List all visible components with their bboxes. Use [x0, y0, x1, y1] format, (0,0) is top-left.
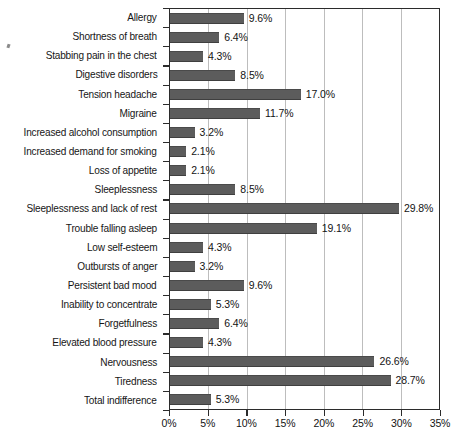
- category-label: Loss of appetite: [89, 165, 157, 176]
- bar-value-label: 2.1%: [191, 146, 215, 157]
- category-label-row: Trouble falling asleep: [0, 219, 163, 238]
- bar: [170, 299, 211, 310]
- category-label-row: Allergy: [0, 8, 163, 27]
- bar-row: 17.0%: [170, 85, 439, 104]
- category-label: Elevated blood pressure: [53, 337, 157, 348]
- category-label-row: Sleeplessness and lack of rest: [0, 199, 163, 218]
- bar-value-label: 9.6%: [249, 280, 273, 291]
- bar-value-label: 8.5%: [240, 184, 264, 195]
- bar-row: 8.5%: [170, 66, 439, 85]
- category-label-row: Inability to concentrate: [0, 295, 163, 314]
- x-axis-tick-label: 0%: [162, 417, 177, 430]
- x-axis-tick-label: 20%: [313, 417, 334, 430]
- category-label: Shortness of breath: [73, 31, 157, 42]
- bar-value-label: 2.1%: [191, 165, 215, 176]
- bar-value-label: 4.3%: [208, 242, 232, 253]
- bar-row: 4.3%: [170, 333, 439, 352]
- bar-value-label: 6.4%: [224, 32, 248, 43]
- bar: [170, 337, 203, 348]
- bar-row: 2.1%: [170, 161, 439, 180]
- bar-row: 4.3%: [170, 238, 439, 257]
- bar: [170, 375, 391, 386]
- category-label-row: Increased alcohol consumption: [0, 123, 163, 142]
- bar-value-label: 8.5%: [240, 70, 264, 81]
- category-label-row: Digestive disorders: [0, 65, 163, 84]
- bar-row: 26.6%: [170, 352, 439, 371]
- category-label-row: Forgetfulness: [0, 314, 163, 333]
- bar-row: 6.4%: [170, 28, 439, 47]
- bar-row: 8.5%: [170, 180, 439, 199]
- category-label: Digestive disorders: [75, 69, 157, 80]
- x-axis-tick: [246, 410, 247, 416]
- bar-value-label: 4.3%: [208, 337, 232, 348]
- category-label: Tiredness: [115, 376, 157, 387]
- bar: [170, 261, 195, 272]
- category-label: Forgetfulness: [98, 318, 157, 329]
- bar: [170, 13, 244, 24]
- x-axis-tick: [363, 410, 364, 416]
- bar-value-label: 28.7%: [396, 375, 425, 386]
- category-label-row: Outbursts of anger: [0, 257, 163, 276]
- x-axis-tick: [208, 410, 209, 416]
- category-label-row: Tension headache: [0, 85, 163, 104]
- bar: [170, 32, 219, 43]
- bar: [170, 127, 195, 138]
- bar: [170, 280, 244, 291]
- bar-value-label: 17.0%: [306, 89, 335, 100]
- category-label-row: Low self-esteem: [0, 238, 163, 257]
- bar: [170, 51, 203, 62]
- category-label-row: Loss of appetite: [0, 161, 163, 180]
- bar-value-label: 6.4%: [224, 318, 248, 329]
- bar-value-label: 5.3%: [216, 299, 240, 310]
- category-label: Trouble falling asleep: [66, 223, 157, 234]
- x-axis-tick-label: 25%: [352, 417, 373, 430]
- category-label: Migraine: [120, 108, 157, 119]
- category-axis-labels: AllergyShortness of breathStabbing pain …: [0, 8, 163, 410]
- x-axis-tick-marks: [169, 410, 440, 416]
- bar-value-label: 26.6%: [379, 356, 408, 367]
- x-axis-tick-labels: 0%5%10%15%20%25%30%35%: [169, 417, 440, 431]
- category-label: Inability to concentrate: [61, 299, 157, 310]
- x-axis-tick: [440, 410, 441, 416]
- category-label: Allergy: [128, 12, 157, 23]
- bar-row: 4.3%: [170, 47, 439, 66]
- bar-row: 6.4%: [170, 314, 439, 333]
- bar-value-label: 5.3%: [216, 394, 240, 405]
- category-label: Sleeplessness and lack of rest: [27, 203, 157, 214]
- bar-row: 9.6%: [170, 276, 439, 295]
- x-axis-tick-label: 10%: [236, 417, 257, 430]
- bar: [170, 242, 203, 253]
- bar-row: 3.2%: [170, 123, 439, 142]
- bar-value-label: 9.6%: [249, 13, 273, 24]
- category-label: Increased demand for smoking: [24, 146, 157, 157]
- category-label: Outbursts of anger: [77, 261, 157, 272]
- bar-row: 11.7%: [170, 104, 439, 123]
- bar: [170, 184, 235, 195]
- x-axis-tick: [169, 410, 170, 416]
- bar-value-label: 3.2%: [200, 261, 224, 272]
- bars-layer: 9.6%6.4%4.3%8.5%17.0%11.7%3.2%2.1%2.1%8.…: [170, 9, 439, 409]
- bar-row: 29.8%: [170, 199, 439, 218]
- category-label: Total indifference: [84, 395, 157, 406]
- bar-row: 5.3%: [170, 295, 439, 314]
- x-axis-tick: [285, 410, 286, 416]
- bar: [170, 146, 186, 157]
- bar: [170, 394, 211, 405]
- bar: [170, 165, 186, 176]
- bar: [170, 89, 301, 100]
- x-axis-tick-label: 35%: [430, 417, 451, 430]
- category-label: Stabbing pain in the chest: [46, 50, 157, 61]
- bar-row: 28.7%: [170, 371, 439, 390]
- bar-chart: AllergyShortness of breathStabbing pain …: [0, 0, 458, 444]
- category-label: Low self-esteem: [86, 242, 157, 253]
- category-label-row: Tiredness: [0, 372, 163, 391]
- bar: [170, 70, 235, 81]
- category-label: Persistent bad mood: [68, 280, 157, 291]
- x-axis-tick: [324, 410, 325, 416]
- bar-row: 2.1%: [170, 142, 439, 161]
- x-axis-tick-label: 5%: [200, 417, 215, 430]
- category-label-row: Persistent bad mood: [0, 276, 163, 295]
- category-label-row: Total indifference: [0, 391, 163, 410]
- bar: [170, 356, 374, 367]
- x-axis-tick-label: 15%: [275, 417, 296, 430]
